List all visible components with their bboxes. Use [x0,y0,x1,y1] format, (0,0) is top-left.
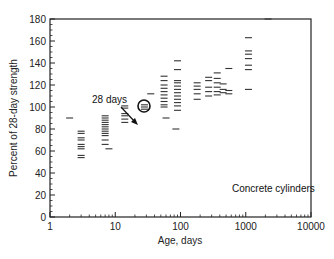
y-axis-label: Percent of 28-day strength [8,59,19,177]
x-tick-label: 1000 [235,221,258,232]
annotation-28-days: 28 days [92,94,127,105]
circle-28-day-marker [138,100,150,112]
x-axis-label: Age, days [158,235,202,246]
y-tick-label: 80 [35,124,47,135]
y-tick-label: 100 [29,102,46,113]
data-points [66,19,271,158]
x-tick-label: 1 [47,221,53,232]
chart-canvas: 020406080100120140160180 110100100010000… [0,0,334,259]
x-axis-ticks: 110100100010000 [47,212,325,232]
annotation-arrow-line [121,107,135,122]
y-axis-ticks: 020406080100120140160180 [29,14,55,223]
y-tick-label: 160 [29,36,46,47]
annotations: 28 days Concrete cylinders [92,94,315,194]
y-tick-label: 180 [29,14,46,25]
x-tick-label: 10000 [297,221,325,232]
y-tick-label: 60 [35,146,47,157]
x-tick-label: 10 [110,221,122,232]
y-tick-label: 140 [29,58,46,69]
annotation-concrete-cylinders: Concrete cylinders [232,183,315,194]
y-tick-label: 20 [35,190,47,201]
x-tick-label: 100 [172,221,189,232]
y-tick-label: 120 [29,80,46,91]
y-tick-label: 0 [40,212,46,223]
y-tick-label: 40 [35,168,47,179]
